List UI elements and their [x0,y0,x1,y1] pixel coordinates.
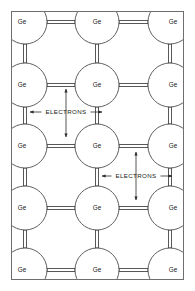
covalent-bond-vertical [96,107,99,124]
covalent-bond-horizontal [47,269,75,272]
atom-label: Ge [18,142,27,149]
atom-label: Ge [93,18,102,25]
covalent-bond-vertical [96,230,99,248]
germanium-atom: Ge [3,63,47,107]
germanium-atom: Ge [3,248,47,291]
covalent-bond-vertical [24,107,27,124]
germanium-atoms-group: GeGeGeGeGeGeGeGeGeGeGeGeGeGeGe [3,0,192,291]
atom-label: Ge [18,266,27,273]
atom-label: Ge [18,81,27,88]
germanium-atom: Ge [75,63,119,107]
atom-label: Ge [18,18,27,25]
crystal-lattice-diagram: GeGeGeGeGeGeGeGeGeGeGeGeGeGeGe ELECTRONS… [0,0,195,291]
covalent-bond-vertical [96,168,99,186]
atom-label: Ge [169,204,178,211]
covalent-bond-horizontal [47,84,75,87]
atom-label: Ge [93,204,102,211]
atom-label: Ge [93,142,102,149]
germanium-atom: Ge [148,124,192,168]
atom-label: Ge [169,81,178,88]
covalent-bond-vertical [169,107,172,124]
germanium-atom: Ge [75,186,119,230]
covalent-bond-vertical [169,230,172,248]
germanium-atom: Ge [148,248,192,291]
covalent-bond-vertical [24,230,27,248]
atom-label: Ge [169,142,178,149]
germanium-atom: Ge [148,0,192,44]
covalent-bond-horizontal [47,207,75,210]
germanium-atom: Ge [75,124,119,168]
covalent-bond-vertical [169,44,172,63]
covalent-bond-vertical [96,44,99,63]
covalent-bond-horizontal [119,269,148,272]
covalent-bond-horizontal [119,145,148,148]
electrons-label: ELECTRONS [46,108,87,115]
covalent-bond-horizontal [47,145,75,148]
figure-canvas: GeGeGeGeGeGeGeGeGeGeGeGeGeGeGe ELECTRONS… [0,0,195,291]
atom-label: Ge [169,266,178,273]
germanium-atom: Ge [148,63,192,107]
covalent-bond-horizontal [47,21,75,24]
germanium-atom: Ge [75,0,119,44]
germanium-atom: Ge [3,0,47,44]
electrons-label: ELECTRONS [116,172,157,179]
covalent-bond-horizontal [119,21,148,24]
germanium-atom: Ge [148,186,192,230]
covalent-bond-vertical [24,44,27,63]
germanium-atom: Ge [75,248,119,291]
germanium-atom: Ge [3,124,47,168]
covalent-bond-horizontal [119,84,148,87]
covalent-bond-vertical [169,168,172,186]
covalent-bond-horizontal [119,207,148,210]
atom-label: Ge [18,204,27,211]
covalent-bond-vertical [24,168,27,186]
atom-label: Ge [93,266,102,273]
atom-label: Ge [93,81,102,88]
germanium-atom: Ge [3,186,47,230]
atom-label: Ge [169,18,178,25]
